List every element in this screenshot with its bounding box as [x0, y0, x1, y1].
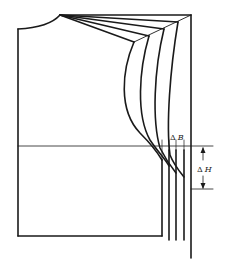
shoulder-lines [60, 15, 178, 42]
bodice-outline [18, 15, 162, 236]
delta-h-label: ΔH [197, 165, 213, 174]
armhole-curves [124, 22, 184, 177]
arrow-up-icon [201, 147, 206, 153]
pattern-diagram: ΔB ΔH [0, 0, 246, 263]
arrow-down-icon [201, 183, 206, 189]
delta-b-label: ΔB [170, 133, 184, 142]
side-seams [169, 150, 184, 240]
